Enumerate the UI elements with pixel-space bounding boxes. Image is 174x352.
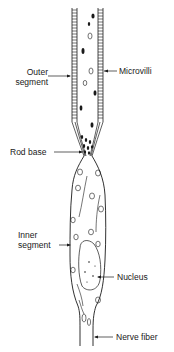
taper-to-rod-base	[72, 122, 103, 156]
rod-cell-illustration	[0, 0, 174, 352]
label-outer-segment-line2: segment	[8, 77, 48, 87]
label-outer-segment: Outer segment	[8, 67, 48, 87]
outer-segment-vesicles	[83, 33, 93, 86]
inner-segment-outline	[70, 156, 106, 346]
inner-segment-organelles	[71, 169, 104, 326]
nucleus-outline	[79, 241, 101, 290]
label-nucleus: Nucleus	[117, 272, 148, 282]
leader-lines	[48, 71, 117, 337]
label-inner-segment-line2: segment	[18, 240, 51, 250]
leader-arrowheads	[67, 70, 108, 339]
label-inner-segment: Inner segment	[18, 230, 51, 250]
label-nerve-fiber: Nerve fiber	[116, 332, 158, 342]
label-outer-segment-line1: Outer	[8, 67, 48, 77]
label-microvilli: Microvilli	[119, 66, 152, 76]
label-inner-segment-line1: Inner	[18, 230, 51, 240]
nucleus-chromatin	[84, 261, 95, 282]
label-rod-base: Rod base	[10, 147, 46, 157]
outer-segment-granules	[80, 13, 97, 127]
